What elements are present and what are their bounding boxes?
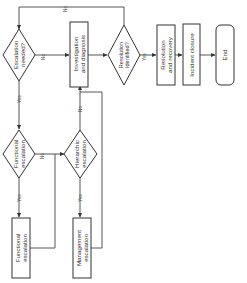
node-label-line1: Resolution: [159, 40, 166, 70]
node-end: End: [216, 25, 234, 85]
label-escalation-no: No: [41, 54, 46, 60]
label-resolution-no: No: [63, 6, 68, 12]
node-escalation-needed: Escalation needed?: [3, 29, 35, 81]
node-management-escalation: Management escalation: [73, 218, 91, 278]
node-label-line1: Investigation: [72, 36, 79, 71]
node-label-line1: Hierarchic: [73, 140, 80, 168]
edge-functional-box-return: [30, 154, 55, 248]
label-hierarchic-yes: Yes: [78, 194, 83, 202]
node-incident-closure: Incident closure: [183, 24, 200, 85]
node-resolution-recovery: Resolution and recovery: [157, 25, 175, 85]
node-label-line2: escalation: [21, 234, 28, 262]
flowchart: No Yes No Yes No Yes No Yes Escalation n…: [0, 0, 247, 283]
node-label-line1: Management: [75, 230, 82, 266]
node-label-line2: escalation: [80, 140, 87, 168]
node-investigation: Investigation and diagnosis: [70, 22, 88, 87]
node-label-line1: End: [221, 49, 228, 61]
node-label-line2: and diagnosis: [79, 35, 86, 73]
label-hierarchic-no: No: [78, 106, 83, 112]
node-label-line2: identified?: [124, 42, 130, 68]
label-escalation-yes: Yes: [17, 95, 22, 103]
label-resolution-yes: Yes: [142, 53, 147, 61]
node-functional-escalation: Functional escalation: [12, 218, 30, 278]
node-label-line2: and recovery: [166, 36, 173, 73]
node-label-line1: Incident closure: [188, 33, 195, 77]
node-label-line1: Escalation: [12, 40, 19, 69]
node-label-line1: Functional: [12, 140, 19, 169]
node-resolution-identified: Resolution identified?: [108, 25, 140, 85]
node-label-line1: Functional: [14, 234, 21, 263]
label-functional-no: No: [40, 153, 45, 159]
node-label-line2: escalation: [82, 234, 89, 262]
node-functional-escalation-question: Functional escalation: [3, 130, 35, 178]
label-functional-yes: Yes: [17, 194, 22, 202]
node-hierarchic-escalation-question: Hierarchic escalation: [64, 130, 97, 178]
node-label-line2: needed?: [19, 42, 26, 67]
node-label-line2: escalation: [19, 140, 26, 168]
